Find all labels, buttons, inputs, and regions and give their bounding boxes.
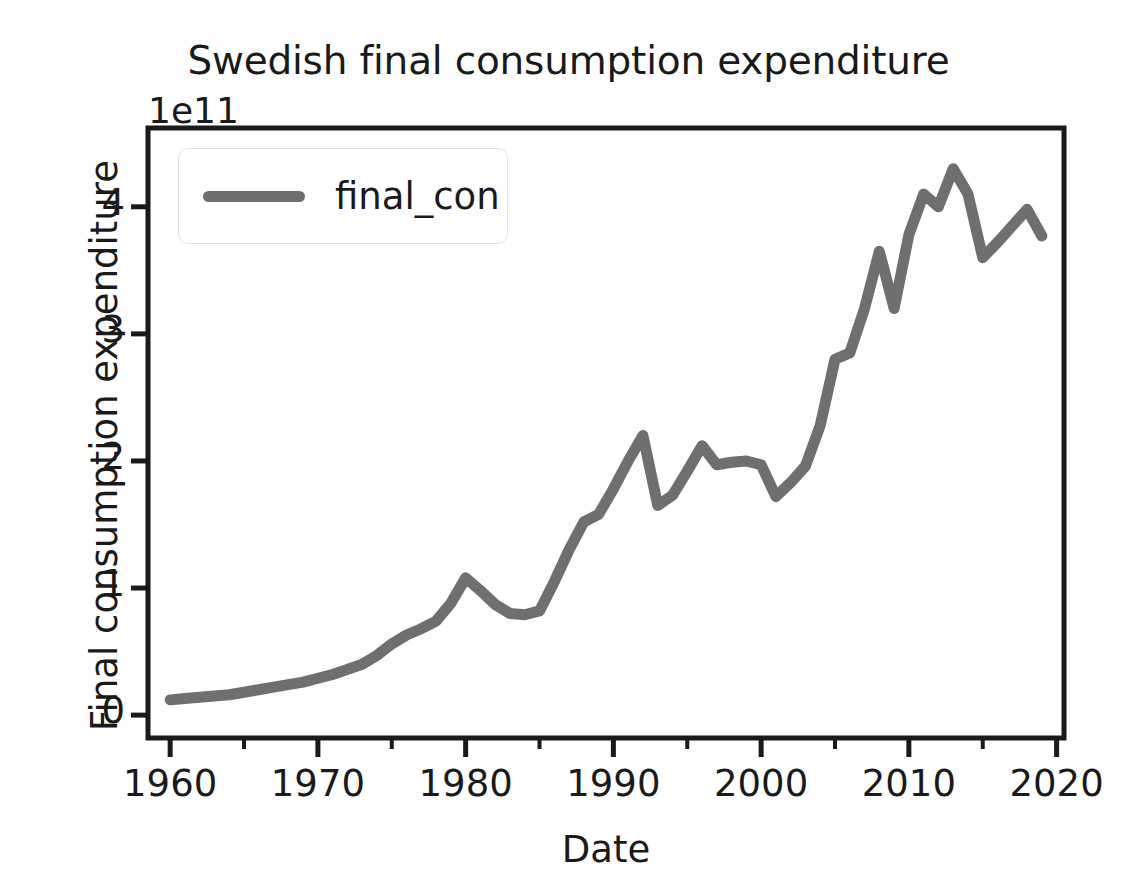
x-axis-label: Date — [148, 828, 1064, 871]
x-tick-label: 1960 — [100, 762, 240, 805]
x-tick-label: 1990 — [543, 762, 683, 805]
legend-label: final_con — [335, 175, 500, 218]
x-tick-label: 2000 — [691, 762, 831, 805]
x-tick-label: 1980 — [396, 762, 536, 805]
y-tick-label: 3 — [65, 308, 125, 351]
x-tick-label: 2010 — [839, 762, 979, 805]
legend-line-swatch — [203, 191, 305, 202]
plot-area — [0, 0, 1137, 895]
x-tick-label: 2020 — [987, 762, 1127, 805]
y-tick-label: 1 — [65, 562, 125, 605]
y-tick-label: 0 — [65, 689, 125, 732]
legend-entry-final-con: final_con — [179, 149, 507, 243]
chart-legend: final_con — [178, 148, 508, 244]
y-tick-label: 2 — [65, 435, 125, 478]
y-tick-label: 4 — [65, 181, 125, 224]
chart-figure: Swedish final consumption expenditure 1e… — [0, 0, 1137, 895]
x-tick-label: 1970 — [248, 762, 388, 805]
data-line-final_con — [170, 169, 1042, 700]
